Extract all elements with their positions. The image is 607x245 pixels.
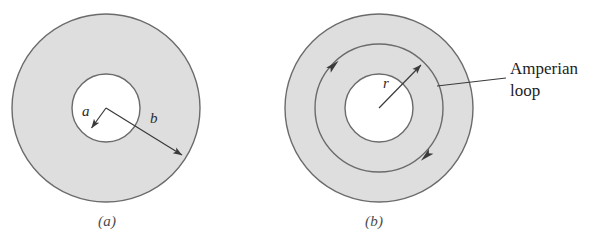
figure-root: a b r Amperian loop (a) (b) [0,0,607,245]
panel-a-caption: (a) [98,213,116,230]
panel-b-caption: (b) [365,213,383,230]
amperian-loop-annotation-text: Amperian loop [510,58,606,103]
panel-b-graphic [285,14,506,202]
panel-a-radius-a-label: a [82,103,90,120]
panel-b-radius-r-label: r [383,75,389,92]
panel-a-graphic [12,14,200,202]
panel-a-radius-b-label: b [150,110,158,127]
figure-canvas [0,0,607,245]
